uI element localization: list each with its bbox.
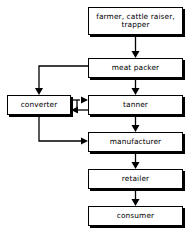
edge-converter-tanner-pair [71, 97, 88, 114]
edge-manufacturer-to-retailer [132, 154, 140, 169]
node-retailer[interactable]: retailer [88, 169, 183, 189]
edge-meat-packer-to-converter [35, 66, 88, 95]
node-converter-label: converter [10, 101, 68, 109]
edge-retailer-to-consumer [132, 191, 140, 206]
node-consumer-label: consumer [91, 212, 180, 220]
edge-tanner-to-manufacturer [132, 117, 140, 132]
node-manufacturer[interactable]: manufacturer [88, 132, 183, 152]
flowchart-diagram: farmer, cattle raiser, trapper meat pack… [0, 0, 192, 239]
node-tanner[interactable]: tanner [88, 95, 183, 115]
node-manufacturer-label: manufacturer [91, 138, 180, 146]
node-meat-packer-label: meat packer [91, 64, 180, 72]
node-converter[interactable]: converter [7, 95, 71, 115]
node-farmer-label: farmer, cattle raiser, trapper [91, 13, 180, 30]
node-farmer[interactable]: farmer, cattle raiser, trapper [88, 7, 183, 35]
edge-meat-packer-to-tanner [132, 80, 140, 95]
node-tanner-label: tanner [91, 101, 180, 109]
node-meat-packer[interactable]: meat packer [88, 58, 183, 78]
node-consumer[interactable]: consumer [88, 206, 183, 226]
edge-farmer-to-meat-packer [132, 37, 140, 58]
connector-layer [0, 0, 192, 239]
node-retailer-label: retailer [91, 175, 180, 183]
edge-converter-to-manufacturer [39, 115, 88, 145]
